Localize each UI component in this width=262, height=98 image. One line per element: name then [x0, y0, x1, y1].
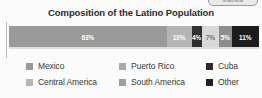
bar-segment-value: 5% — [221, 34, 230, 41]
legend-swatch-icon — [26, 79, 33, 86]
legend-item-label: Puerto Rico — [131, 61, 174, 71]
legend-item-label: Other — [218, 77, 239, 87]
legend-item-cuba[interactable]: Cuba — [206, 61, 258, 71]
legend-item-puerto-rico[interactable]: Puerto Rico — [119, 61, 206, 71]
legend-swatch-icon — [119, 63, 126, 70]
legend-item-label: Mexico — [38, 61, 64, 71]
legend-item-south-america[interactable]: South America — [119, 77, 206, 87]
legend-swatch-icon — [119, 79, 126, 86]
chart-figure: statista Composition of the Latino Popul… — [0, 0, 262, 98]
legend-item-label: South America — [131, 77, 185, 87]
legend-item-mexico[interactable]: Mexico — [26, 61, 119, 71]
bar-segment-value: 4% — [192, 34, 201, 41]
legend-item-central-america[interactable]: Central America — [26, 77, 119, 87]
chart-legend: MexicoPuerto RicoCubaCentral AmericaSout… — [26, 58, 258, 90]
bar-baseline — [9, 47, 259, 49]
legend-swatch-icon — [26, 63, 33, 70]
stacked-bar: 63%10%4%7%5%11% — [9, 26, 259, 47]
bar-segment-value: 63% — [81, 34, 94, 41]
bar-segment-value: 7% — [206, 34, 215, 41]
legend-swatch-icon — [206, 79, 213, 86]
watermark-badge: statista — [208, 0, 258, 6]
bar-segment: 10% — [167, 26, 192, 47]
legend-item-label: Central America — [38, 77, 97, 87]
bar-segment: 5% — [219, 26, 232, 47]
bar-segment: 63% — [9, 26, 167, 47]
bar-segment: 4% — [192, 26, 202, 47]
legend-swatch-icon — [206, 63, 213, 70]
chart-title: Composition of the Latino Population — [0, 7, 262, 18]
axis-line — [6, 22, 7, 58]
bar-segment-value: 11% — [239, 34, 251, 41]
bar-segment-value: 10% — [173, 34, 186, 41]
legend-item-label: Cuba — [218, 61, 238, 71]
bar-segment: 7% — [202, 26, 220, 47]
legend-item-other[interactable]: Other — [206, 77, 258, 87]
bar-segment: 11% — [232, 26, 260, 47]
